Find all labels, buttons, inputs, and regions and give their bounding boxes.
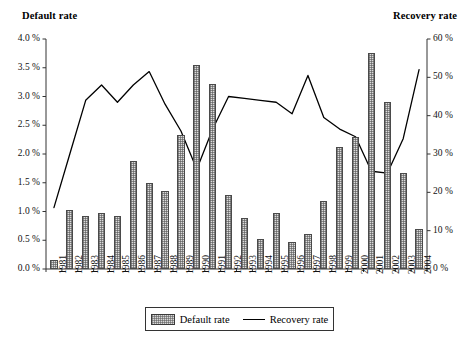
right-axis-tick-label: 30 % (433, 148, 453, 158)
bar-default-rate (273, 213, 280, 269)
x-axis-tick-label: 2004 (423, 255, 433, 274)
legend-label-recovery-rate: Recovery rate (270, 314, 329, 325)
left-axis-tick-label: 1.0 % (0, 206, 40, 216)
bar-default-rate (336, 147, 343, 269)
legend-label-default-rate: Default rate (180, 314, 230, 325)
bar-default-rate (209, 84, 216, 269)
left-axis-tick-label: 2.0 % (0, 148, 40, 158)
bar-default-rate (50, 260, 57, 269)
bar-default-rate (225, 195, 232, 269)
left-axis-tick-label: 0.5 % (0, 234, 40, 244)
bar-default-rate (177, 135, 184, 269)
right-axis-tick-label: 50 % (433, 71, 453, 81)
bar-default-rate (368, 53, 375, 269)
left-axis-tick-label: 4.0 % (0, 33, 40, 43)
default-recovery-rate-chart: Default rate Recovery rate 4.0 %3.5 %3.0… (0, 0, 471, 344)
left-axis-tick-label: 3.5 % (0, 62, 40, 72)
bar-default-rate (114, 216, 121, 269)
right-axis-tick-label: 0 % (433, 263, 448, 273)
bar-default-rate (304, 234, 311, 269)
legend-item-default-rate: Default rate (151, 314, 230, 325)
left-axis-tick-label: 2.5 % (0, 119, 40, 129)
bar-default-rate (130, 161, 137, 269)
bar-default-rate (98, 213, 105, 269)
bar-default-rate (352, 137, 359, 269)
bar-default-rate (193, 65, 200, 269)
bar-default-rate (146, 183, 153, 269)
right-axis-tick-label: 10 % (433, 225, 453, 235)
bar-default-rate (384, 102, 391, 269)
right-axis-tick-label: 60 % (433, 33, 453, 43)
chart-legend: Default rate Recovery rate (145, 307, 334, 331)
bar-default-rate (320, 201, 327, 269)
legend-item-recovery-rate: Recovery rate (243, 314, 329, 325)
bar-default-rate (161, 191, 168, 269)
bar-default-rate (257, 239, 264, 269)
legend-line-swatch-icon (243, 319, 265, 320)
left-axis-tick-label: 3.0 % (0, 91, 40, 101)
right-axis-tick-label: 20 % (433, 186, 453, 196)
bar-default-rate (400, 173, 407, 269)
right-axis-tick-label: 40 % (433, 110, 453, 120)
bar-default-rate (241, 218, 248, 269)
bar-default-rate (415, 229, 422, 269)
left-axis-tick-label: 0.0 % (0, 263, 40, 273)
bar-default-rate (288, 242, 295, 269)
left-axis-tick-label: 1.5 % (0, 177, 40, 187)
legend-bar-swatch-icon (151, 314, 175, 325)
bar-default-rate (66, 210, 73, 269)
bar-default-rate (82, 216, 89, 269)
